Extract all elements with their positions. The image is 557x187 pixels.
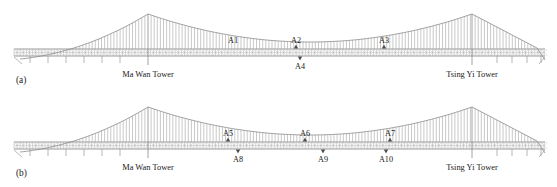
sensor-label-a3: A3 — [379, 36, 389, 45]
sensor-marker-a10 — [384, 150, 388, 154]
sensor-label-a9: A9 — [318, 155, 328, 164]
sensor-marker-a4 — [298, 57, 302, 61]
sensor-marker-a2 — [294, 45, 298, 49]
sensor-marker-a8 — [236, 150, 240, 154]
tower-label-ma-wan: Ma Wan Tower — [122, 70, 174, 79]
panel-label-b: (b) — [16, 168, 27, 179]
tower-label-tsing-yi: Tsing Yi Tower — [446, 163, 498, 172]
right-anchorage — [539, 150, 545, 157]
tower-label-ma-wan: Ma Wan Tower — [122, 163, 174, 172]
sensor-marker-a7 — [388, 138, 392, 142]
left-anchorage — [14, 150, 22, 157]
sensor-marker-a3 — [382, 45, 386, 49]
bridge-panel-b: A5A6A7A8A9A10Ma Wan TowerTsing Yi Tower(… — [14, 107, 547, 179]
sensor-marker-a9 — [321, 150, 325, 154]
sensor-label-a1: A1 — [228, 36, 238, 45]
sensor-label-a5: A5 — [223, 129, 233, 138]
sensor-label-a8: A8 — [233, 155, 243, 164]
bridge-figure: A1A2A3A4Ma Wan TowerTsing Yi Tower(a)A5A… — [0, 0, 557, 187]
tower-label-tsing-yi: Tsing Yi Tower — [446, 70, 498, 79]
main-span-cable — [148, 14, 472, 42]
sensor-label-a7: A7 — [385, 129, 395, 138]
sensor-label-a6: A6 — [300, 129, 310, 138]
side-span-cable-right — [472, 107, 537, 141]
right-anchorage — [539, 57, 545, 64]
sensor-label-a10: A10 — [379, 155, 393, 164]
sensor-marker-a5 — [226, 138, 230, 142]
sensor-marker-a6 — [303, 138, 307, 142]
sensor-label-a4: A4 — [295, 62, 305, 71]
bridge-diagram-svg: A1A2A3A4Ma Wan TowerTsing Yi Tower(a)A5A… — [0, 0, 557, 187]
bridge-panel-a: A1A2A3A4Ma Wan TowerTsing Yi Tower(a) — [14, 14, 547, 86]
left-anchorage — [14, 57, 22, 64]
sensor-label-a2: A2 — [291, 36, 301, 45]
panel-label-a: (a) — [16, 75, 26, 86]
side-span-cable-right — [472, 14, 537, 48]
